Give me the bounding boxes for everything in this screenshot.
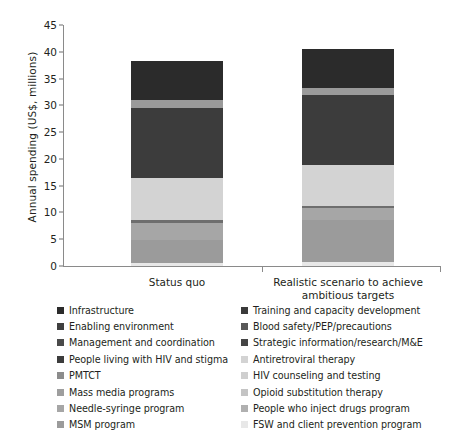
x-axis-line — [63, 266, 441, 267]
legend-swatch-icon — [57, 421, 64, 428]
y-axis-title: Annual spending (US$, millions) — [26, 22, 38, 252]
axis-area: 051015202530354045 Status quoRealistic s… — [63, 20, 443, 270]
bar-segment — [131, 108, 223, 178]
bar-segment — [131, 100, 223, 108]
y-tick-mark — [59, 266, 63, 267]
y-tick-mark — [59, 158, 63, 159]
bar-segment — [302, 206, 394, 208]
legend-column-left: InfrastructureEnabling environmentManage… — [57, 302, 247, 433]
x-tick-mark — [440, 267, 441, 272]
bar-segment — [302, 49, 394, 88]
y-tick-mark — [59, 212, 63, 213]
legend-swatch-icon — [57, 405, 64, 412]
legend-item-label: FSW and client prevention program — [253, 419, 422, 430]
legend-item-label: People living with HIV and stigma — [69, 354, 228, 365]
legend-item[interactable]: Enabling environment — [57, 318, 247, 334]
y-tick-mark — [59, 132, 63, 133]
legend-item[interactable]: PMTCT — [57, 368, 247, 384]
legend-swatch-icon — [241, 389, 248, 396]
bar-segment — [131, 61, 223, 100]
bar-segment — [302, 95, 394, 166]
legend-item-label: Blood safety/PEP/precautions — [253, 321, 392, 332]
bar-segment — [302, 262, 394, 266]
legend-item[interactable]: Blood safety/PEP/precautions — [241, 318, 454, 334]
chart-page: Annual spending (US$, millions) 05101520… — [0, 0, 454, 447]
y-tick-mark — [59, 78, 63, 79]
legend-swatch-icon — [57, 307, 64, 314]
bar-segment — [302, 208, 394, 220]
legend-item[interactable]: People who inject drugs program — [241, 400, 454, 416]
legend-swatch-icon — [57, 389, 64, 396]
legend: InfrastructureEnabling environmentManage… — [0, 302, 454, 447]
bar-segment — [131, 263, 223, 266]
y-axis-line — [63, 25, 64, 266]
y-tick-mark — [59, 51, 63, 52]
legend-swatch-icon — [241, 307, 248, 314]
legend-item[interactable]: Opioid substitution therapy — [241, 384, 454, 400]
legend-item-label: Antiretroviral therapy — [253, 354, 355, 365]
legend-item-label: Mass media programs — [69, 387, 174, 398]
legend-item-label: Training and capacity development — [253, 305, 420, 316]
legend-item-label: Enabling environment — [69, 321, 174, 332]
legend-item[interactable]: Needle-syringe program — [57, 400, 247, 416]
legend-item-label: HIV counseling and testing — [253, 370, 380, 381]
bar-segment — [131, 220, 223, 222]
legend-item[interactable]: Mass media programs — [57, 384, 247, 400]
legend-item-label: Infrastructure — [69, 305, 134, 316]
plot-area: Annual spending (US$, millions) 05101520… — [0, 0, 454, 300]
legend-swatch-icon — [57, 356, 64, 363]
x-axis-label: Status quo — [82, 276, 272, 289]
y-tick-mark — [59, 105, 63, 106]
legend-item-label: Strategic information/research/M&E — [253, 337, 423, 348]
legend-column-right: Training and capacity developmentBlood s… — [241, 302, 454, 433]
legend-swatch-icon — [241, 356, 248, 363]
legend-swatch-icon — [241, 372, 248, 379]
legend-item[interactable]: People living with HIV and stigma — [57, 351, 247, 367]
legend-item[interactable]: Strategic information/research/M&E — [241, 335, 454, 351]
stacked-bar — [302, 49, 394, 266]
bar-segment — [131, 223, 223, 240]
legend-swatch-icon — [57, 339, 64, 346]
legend-item-label: Management and coordination — [69, 337, 215, 348]
y-tick-mark — [59, 25, 63, 26]
legend-swatch-icon — [241, 405, 248, 412]
legend-item-label: Opioid substitution therapy — [253, 387, 383, 398]
legend-swatch-icon — [241, 421, 248, 428]
x-tick-mark — [262, 267, 263, 272]
legend-item[interactable]: MSM program — [57, 417, 247, 433]
bar-segment — [131, 240, 223, 264]
legend-item[interactable]: Training and capacity development — [241, 302, 454, 318]
legend-item[interactable]: HIV counseling and testing — [241, 368, 454, 384]
x-axis-label: Realistic scenario to achieveambitious t… — [253, 276, 443, 301]
legend-swatch-icon — [241, 323, 248, 330]
legend-item-label: PMTCT — [69, 370, 101, 381]
y-tick-mark — [59, 185, 63, 186]
legend-item[interactable]: FSW and client prevention program — [241, 417, 454, 433]
legend-item-label: People who inject drugs program — [253, 403, 410, 414]
legend-item-label: MSM program — [69, 419, 135, 430]
legend-swatch-icon — [241, 339, 248, 346]
y-tick-mark — [59, 239, 63, 240]
bar-segment — [131, 178, 223, 221]
legend-item-label: Needle-syringe program — [69, 403, 184, 414]
bar-segment — [302, 88, 394, 95]
legend-swatch-icon — [57, 372, 64, 379]
legend-item[interactable]: Management and coordination — [57, 335, 247, 351]
legend-swatch-icon — [57, 323, 64, 330]
stacked-bar — [131, 61, 223, 266]
legend-item[interactable]: Infrastructure — [57, 302, 247, 318]
bar-segment — [302, 165, 394, 206]
legend-item[interactable]: Antiretroviral therapy — [241, 351, 454, 367]
bar-segment — [302, 220, 394, 261]
